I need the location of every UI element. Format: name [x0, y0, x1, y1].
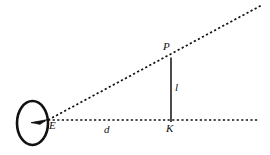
- figure-root: E d K P l: [0, 0, 270, 155]
- label-point-e: E: [49, 120, 56, 131]
- label-point-p: P: [163, 41, 170, 52]
- sight-line-dotted-line: [48, 5, 262, 120]
- diagram-canvas: [0, 0, 270, 155]
- label-point-k: K: [166, 123, 173, 134]
- label-distance-d: d: [104, 124, 110, 135]
- label-length-l: l: [175, 82, 178, 93]
